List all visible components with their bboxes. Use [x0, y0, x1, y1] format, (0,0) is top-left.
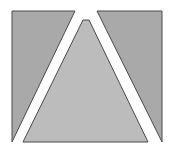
diagram-canvas: [0, 0, 173, 151]
